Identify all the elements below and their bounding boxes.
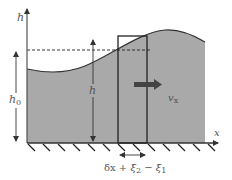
velocity-label: vx bbox=[168, 93, 178, 105]
minus-xi: − ξ bbox=[141, 162, 161, 173]
local-height-label: h bbox=[89, 84, 96, 97]
velocity-subscript: x bbox=[174, 96, 179, 105]
horizontal-axis-label: x bbox=[214, 128, 220, 138]
vertical-axis-label: h bbox=[17, 12, 24, 23]
fluid-region bbox=[27, 30, 205, 143]
plus-xi: + ξ bbox=[116, 162, 136, 173]
xi1-subscript: 1 bbox=[161, 166, 166, 175]
shallow-water-diagram bbox=[0, 0, 232, 180]
delta-x: δx bbox=[104, 162, 116, 173]
h0-subscript: 0 bbox=[16, 98, 21, 107]
width-expression-label: δx + ξ2 − ξ1 bbox=[104, 163, 166, 175]
undisturbed-depth-label: h0 bbox=[9, 93, 21, 108]
ground-hatching bbox=[28, 144, 215, 151]
